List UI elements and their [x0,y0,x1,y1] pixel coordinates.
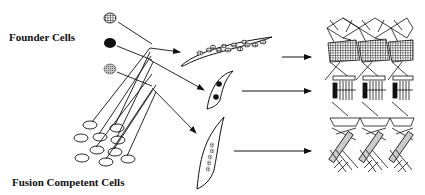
founder-cell-solid [104,38,116,48]
arrow-to-myotube-3 [152,88,196,133]
myotube-crosshatch-nuclei [181,37,272,66]
myotube-solid-nuclei [207,71,233,109]
myogenesis-diagram [0,0,425,195]
founder-cells [104,13,116,74]
founder-cell-stippled [104,64,116,74]
myotube-stippled-nuclei [197,117,224,189]
arrow-to-myotube-2 [150,60,204,90]
muscle-patterns [325,18,414,172]
lateral-muscle-pattern [325,62,413,116]
arrow-to-myotube-1 [150,48,180,52]
founder-cell-crosshatch [104,13,116,23]
fusion-competent-cells [74,121,135,166]
ventral-muscle-pattern [329,118,414,172]
dorsal-muscle-pattern [327,18,413,62]
